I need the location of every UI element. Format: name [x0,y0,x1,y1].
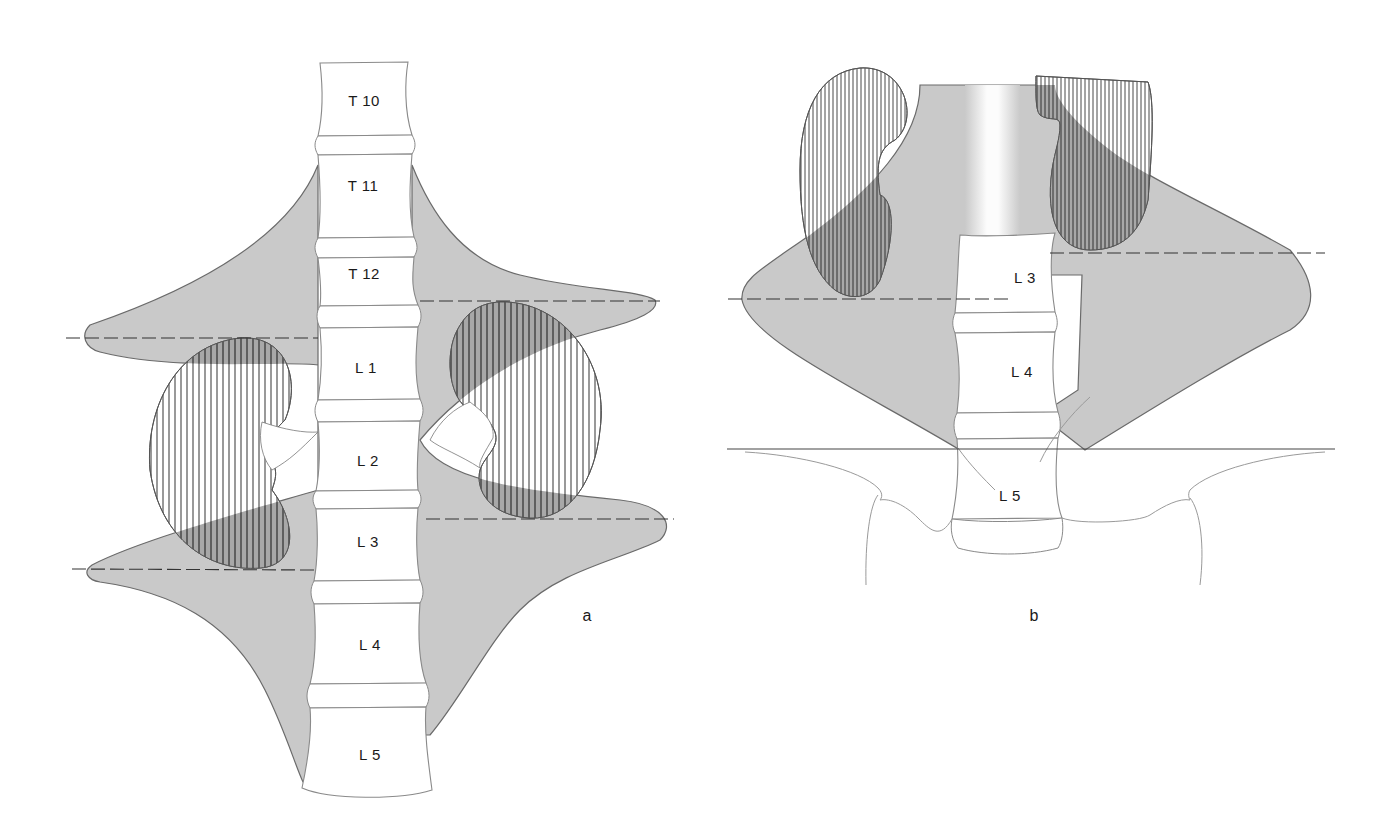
panel-label-a: a [583,607,592,624]
panel-label-b: b [1030,607,1039,624]
spine-column-b [951,233,1063,554]
pelvis-outline-right [1062,452,1325,585]
vertebra-label-t12: T 12 [348,265,380,282]
vertebra-label-b-l3: L 3 [1014,269,1036,286]
vertebra-label-l1: L 1 [355,359,377,376]
panel-a: T 10 T 11 T 12 L 1 L 2 L 3 L 4 L 5 a [66,62,674,797]
vertebra-label-b-l5: L 5 [999,487,1021,504]
vertebra-label-l4: L 4 [359,636,381,653]
anatomical-figure: T 10 T 11 T 12 L 1 L 2 L 3 L 4 L 5 a [0,0,1385,837]
vertebra-label-b-l4: L 4 [1011,363,1033,380]
vertebra-label-t11: T 11 [348,177,379,194]
vertebra-label-l2: L 2 [357,452,379,469]
panel-b: L 3 L 4 L 5 b [727,68,1335,624]
vertebra-label-l3: L 3 [357,533,379,550]
pelvis-outline-left [745,452,952,585]
vertebra-label-t10: T 10 [348,92,380,109]
vertebra-label-l5: L 5 [359,746,381,763]
